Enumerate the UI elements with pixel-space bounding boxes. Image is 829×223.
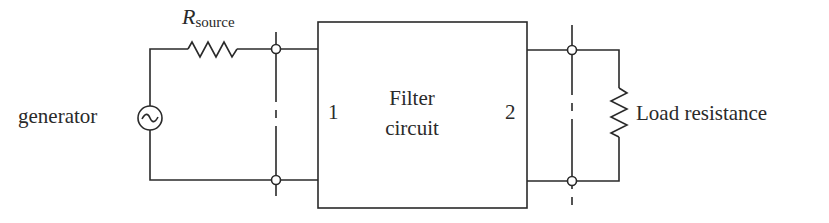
- terminal-node-icon: [272, 45, 281, 54]
- resistor-subscript: source: [195, 14, 234, 30]
- resistor-symbol: R: [182, 4, 195, 29]
- generator-label: generator: [18, 104, 97, 129]
- terminal-node-icon: [568, 177, 577, 186]
- output-bottom-wire: [527, 137, 619, 181]
- output-top-wire: [527, 50, 619, 88]
- source-resistor-label: Rsource: [182, 4, 235, 31]
- port-1-label: 1: [328, 100, 339, 125]
- circuit-diagram: generator Rsource 1 2 Filter circuit Loa…: [0, 0, 829, 223]
- filter-title-line2: circuit: [360, 113, 464, 143]
- filter-title: Filter circuit: [360, 83, 464, 143]
- terminal-node-icon: [272, 176, 281, 185]
- port-2-label: 2: [505, 100, 516, 125]
- terminal-node-icon: [568, 46, 577, 55]
- load-resistance-label: Load resistance: [636, 101, 767, 126]
- filter-title-line1: Filter: [360, 83, 464, 113]
- source-bottom-wire: [150, 130, 318, 180]
- load-resistor-icon: [611, 88, 627, 137]
- ac-source-icon: [138, 106, 162, 130]
- source-top-wire: [150, 49, 188, 106]
- source-resistor-icon: [188, 42, 237, 57]
